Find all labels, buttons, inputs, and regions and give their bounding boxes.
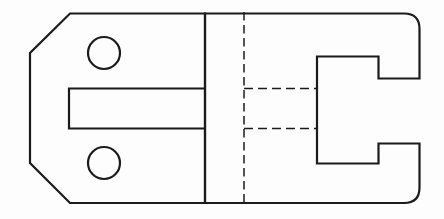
front-view-upper-hole — [88, 37, 120, 69]
technical-drawing-sheet — [0, 0, 444, 219]
front-view-lower-hole — [88, 147, 120, 179]
side-view-outline — [205, 14, 420, 204]
front-view-slot-outline — [69, 89, 205, 129]
orthographic-projection-drawing — [0, 0, 444, 219]
front-view-outline — [30, 14, 205, 204]
